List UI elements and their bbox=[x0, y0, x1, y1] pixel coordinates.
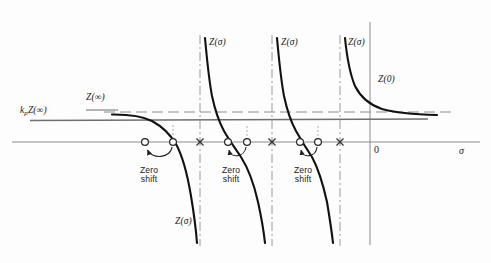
figure-canvas: kpZ(∞) Z(∞) Z(σ) Z(σ) Z(σ) Z(0) Z(σ) Zer… bbox=[0, 0, 491, 263]
kp-z-infinity-level-line bbox=[30, 119, 428, 121]
zero-shift-arrow-1 bbox=[148, 147, 173, 156]
z-sigma-label-1: Z(σ) bbox=[209, 38, 226, 48]
zero-shift-annotation-2: Zero shift bbox=[214, 166, 248, 184]
sigma-axis-label: σ bbox=[459, 146, 464, 157]
kp-z-infinity-label: kpZ(∞) bbox=[20, 106, 47, 117]
zero-shift-line-2: shift bbox=[214, 175, 248, 184]
zero-marker-original-1 bbox=[142, 139, 149, 146]
z-sigma-label-bottom: Z(σ) bbox=[175, 217, 192, 227]
zero-marker-original-2 bbox=[225, 139, 232, 146]
curve-branch-2 bbox=[277, 38, 333, 243]
zero-shift-line-2: shift bbox=[132, 175, 166, 184]
zero-shift-line-2: shift bbox=[286, 175, 320, 184]
z-sigma-label-3: Z(σ) bbox=[348, 38, 365, 48]
zero-marker-shifted-2 bbox=[244, 139, 251, 146]
z-zero-label: Z(0) bbox=[378, 75, 395, 85]
zero-marker-shifted-3 bbox=[315, 139, 322, 146]
impedance-plot-svg bbox=[0, 0, 491, 263]
origin-label: 0 bbox=[374, 145, 379, 156]
z-infinity-label: Z(∞) bbox=[86, 93, 105, 103]
z-sigma-label-2: Z(σ) bbox=[281, 38, 298, 48]
zero-shift-annotation-1: Zero shift bbox=[132, 166, 166, 184]
zero-marker-shifted-1 bbox=[170, 139, 177, 146]
zero-marker-original-3 bbox=[297, 139, 304, 146]
zero-shift-annotation-3: Zero shift bbox=[286, 166, 320, 184]
curve-branch-1 bbox=[205, 38, 265, 243]
